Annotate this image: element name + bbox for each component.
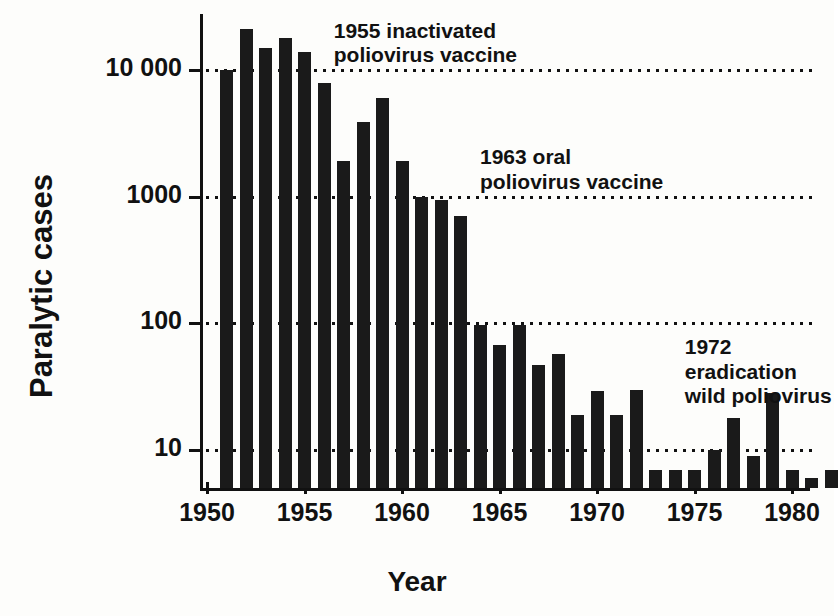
bar xyxy=(532,365,545,488)
bar xyxy=(357,122,370,488)
gridline xyxy=(203,196,812,199)
x-tick-label: 1950 xyxy=(179,498,235,527)
bar xyxy=(825,470,838,488)
bar xyxy=(513,325,526,488)
y-tick-label: 10 xyxy=(154,433,182,462)
bar xyxy=(318,83,331,488)
y-tick-label: 1000 xyxy=(126,180,182,209)
bar xyxy=(630,390,643,488)
bar xyxy=(220,70,233,488)
y-tick-label: 100 xyxy=(140,306,182,335)
y-axis-title: Paralytic cases xyxy=(24,76,60,496)
bar xyxy=(454,216,467,488)
bar xyxy=(805,478,818,488)
bar xyxy=(415,197,428,488)
bar xyxy=(688,470,701,488)
x-tick-label: 1980 xyxy=(764,498,820,527)
x-tick-label: 1960 xyxy=(374,498,430,527)
x-tick-label: 1965 xyxy=(472,498,528,527)
y-tick-mark xyxy=(189,196,203,199)
bar xyxy=(708,450,721,488)
y-tick-label: 10 000 xyxy=(106,53,182,82)
bar xyxy=(376,98,389,488)
bar xyxy=(279,38,292,488)
annotation-2: 1963 oral poliovirus vaccine xyxy=(480,145,663,195)
bar xyxy=(337,161,350,488)
x-tick-label: 1975 xyxy=(667,498,723,527)
bar xyxy=(610,415,623,488)
bar xyxy=(669,470,682,488)
x-tick-label: 1970 xyxy=(569,498,625,527)
gridline xyxy=(203,449,812,452)
y-tick-mark xyxy=(189,322,203,325)
bar xyxy=(552,354,565,488)
x-axis-line xyxy=(200,488,810,491)
bar xyxy=(747,456,760,488)
x-tick-label: 1955 xyxy=(277,498,333,527)
gridline xyxy=(203,69,812,72)
bar xyxy=(727,418,740,488)
bar xyxy=(571,415,584,488)
gridline xyxy=(203,322,812,325)
bar xyxy=(396,161,409,488)
bar xyxy=(591,391,604,488)
bar xyxy=(786,470,799,488)
bar xyxy=(649,470,662,488)
bar xyxy=(474,325,487,488)
bar xyxy=(240,29,253,488)
bar xyxy=(493,345,506,488)
annotation-1: 1955 inactivated poliovirus vaccine xyxy=(334,19,517,69)
y-tick-mark xyxy=(189,449,203,452)
y-axis-line xyxy=(200,14,203,491)
bar xyxy=(435,200,448,488)
annotation-3: 1972 eradication wild poliovirus xyxy=(685,335,834,409)
bar xyxy=(259,48,272,488)
x-axis-title: Year xyxy=(0,566,834,598)
bar xyxy=(298,52,311,488)
y-tick-mark xyxy=(189,69,203,72)
x-tick-mark xyxy=(206,482,209,494)
